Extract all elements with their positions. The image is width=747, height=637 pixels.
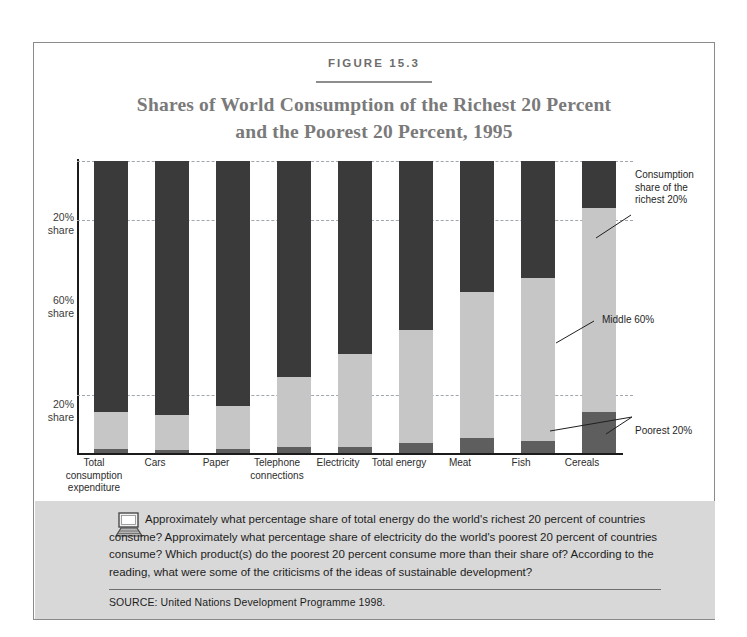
question-text: Approximately what percentage share of t…: [109, 511, 661, 581]
callout-leader-lines: [34, 43, 716, 503]
question-text-wrap: Approximately what percentage share of t…: [109, 511, 661, 581]
callout-poorest: Poorest 20%: [635, 425, 725, 438]
figure-frame: FIGURE 15.3 Shares of World Consumption …: [33, 42, 715, 620]
source-text: SOURCE: United Nations Development Progr…: [109, 596, 385, 608]
source-divider: [109, 589, 661, 590]
question-block: Approximately what percentage share of t…: [35, 501, 715, 619]
callout-richest: Consumption share of the richest 20%: [635, 169, 709, 207]
figure-page: FIGURE 15.3 Shares of World Consumption …: [0, 0, 747, 637]
callout-middle: Middle 60%: [602, 314, 692, 327]
chart-area: 20% share 60% share 20% share Totalconsu…: [34, 43, 716, 503]
